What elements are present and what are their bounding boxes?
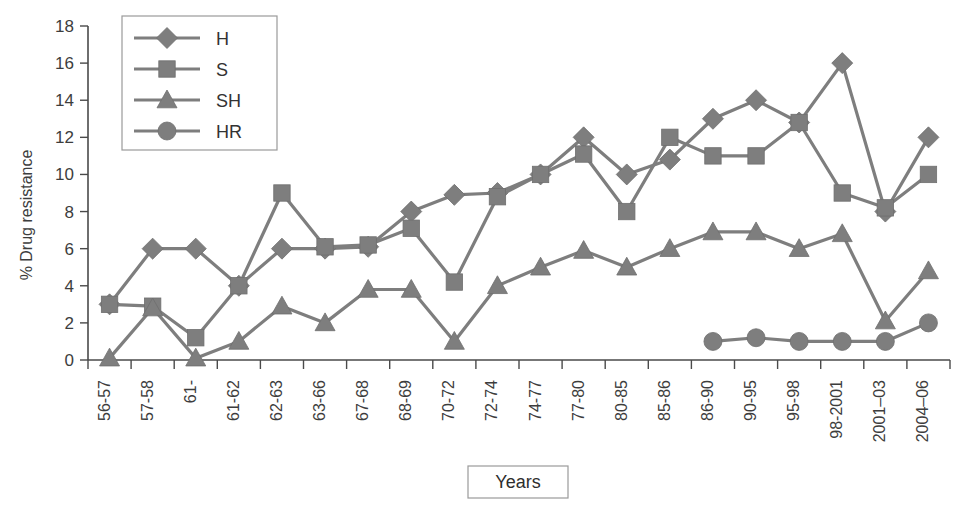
y-tick-label: 12 xyxy=(55,128,74,147)
data-point-square xyxy=(274,185,290,201)
data-point-circle xyxy=(790,332,808,350)
data-point-circle xyxy=(876,332,894,350)
x-tick-label: 56-57 xyxy=(96,380,113,421)
x-tick-label: 85-86 xyxy=(656,380,673,421)
y-tick-label: 0 xyxy=(65,351,74,370)
data-point-square xyxy=(446,274,462,290)
x-tick-label: 2004–06 xyxy=(914,380,931,442)
data-point-diamond xyxy=(832,53,853,74)
x-tick-label: 77-80 xyxy=(570,380,587,421)
y-tick-label: 4 xyxy=(65,277,74,296)
data-point-square xyxy=(101,296,117,312)
data-point-square xyxy=(159,61,175,77)
data-point-circle xyxy=(747,329,765,347)
data-point-square xyxy=(231,278,247,294)
legend-label: HR xyxy=(216,122,242,142)
data-point-square xyxy=(920,166,936,182)
data-point-square xyxy=(877,200,893,216)
x-axis-title-group: Years xyxy=(468,466,568,498)
legend-label: S xyxy=(216,60,228,80)
data-point-diamond xyxy=(918,127,939,148)
data-point-square xyxy=(619,203,635,219)
data-point-square xyxy=(705,148,721,164)
x-tick-label: 61- xyxy=(182,380,199,403)
data-point-triangle xyxy=(487,276,507,294)
x-tick-label: 90-95 xyxy=(742,380,759,421)
data-point-circle xyxy=(704,332,722,350)
data-point-square xyxy=(791,114,807,130)
data-point-circle xyxy=(158,122,176,140)
y-tick-label: 8 xyxy=(65,203,74,222)
y-axis-title: % Drug resistance xyxy=(18,150,35,281)
data-point-diamond xyxy=(746,90,767,111)
x-tick-label: 67-68 xyxy=(354,380,371,421)
x-tick-label: 61-62 xyxy=(225,380,242,421)
y-tick-label: 18 xyxy=(55,17,74,36)
data-point-square xyxy=(403,220,419,236)
data-point-triangle xyxy=(272,296,292,314)
data-point-square xyxy=(532,166,548,182)
x-axis-title: Years xyxy=(495,472,540,492)
data-point-square xyxy=(748,148,764,164)
series-hr xyxy=(704,314,938,351)
data-point-square xyxy=(489,189,505,205)
series-sh xyxy=(100,222,939,366)
y-tick-label: 6 xyxy=(65,240,74,259)
legend-label: SH xyxy=(216,91,241,111)
x-tick-label: 70-72 xyxy=(440,380,457,421)
series-line-hr xyxy=(713,323,929,342)
figure-caption xyxy=(0,508,980,522)
data-point-circle xyxy=(833,332,851,350)
x-tick-label: 80-85 xyxy=(613,380,630,421)
data-point-triangle xyxy=(574,241,594,259)
legend-label: H xyxy=(216,29,229,49)
x-tick-label: 72-74 xyxy=(483,380,500,421)
data-point-square xyxy=(317,239,333,255)
chart-figure: 02468101214161856-5757-5861-61-6262-6363… xyxy=(0,0,980,522)
x-tick-label: 86-90 xyxy=(699,380,716,421)
data-point-square xyxy=(360,237,376,253)
data-point-square xyxy=(188,330,204,346)
y-tick-label: 14 xyxy=(55,91,74,110)
x-tick-label: 57-58 xyxy=(139,380,156,421)
x-tick-label: 62-63 xyxy=(268,380,285,421)
x-tick-label: 68-69 xyxy=(397,380,414,421)
series-line-s xyxy=(110,122,929,337)
legend: HSSHHR xyxy=(122,16,277,150)
drug-resistance-line-chart: 02468101214161856-5757-5861-61-6262-6363… xyxy=(0,0,980,522)
data-point-diamond xyxy=(444,184,465,205)
data-point-square xyxy=(834,185,850,201)
data-point-triangle xyxy=(832,224,852,242)
data-point-square xyxy=(575,146,591,162)
y-tick-label: 10 xyxy=(55,165,74,184)
x-tick-label: 63-66 xyxy=(311,380,328,421)
y-tick-label: 16 xyxy=(55,54,74,73)
y-tick-label: 2 xyxy=(65,314,74,333)
data-point-circle xyxy=(919,314,937,332)
x-tick-label: 98-2001 xyxy=(828,380,845,439)
data-point-square xyxy=(662,129,678,145)
data-point-triangle xyxy=(918,261,938,279)
x-tick-label: 74-77 xyxy=(527,380,544,421)
x-tick-label: 2001–03 xyxy=(871,380,888,442)
x-tick-labels: 56-5757-5861-61-6262-6363-6667-6868-6970… xyxy=(96,380,932,442)
x-tick-label: 95-98 xyxy=(785,380,802,421)
